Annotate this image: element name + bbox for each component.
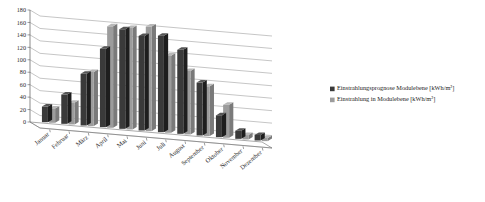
x-axis-tick [185,141,186,144]
y-axis-tick-label: 140 [17,31,26,38]
y-axis-tick-label: 120 [17,44,26,51]
bar-column [119,27,129,129]
bar-side-face [106,46,110,127]
bar-side-face [171,53,175,133]
x-axis-tick-label: Juli [155,140,167,151]
bar-column [139,33,149,130]
bar-front-face [235,131,241,139]
bar-side-face [190,68,194,134]
legend-label: Einstrahlungsprognose Modulebene [kWh/m²… [337,84,454,92]
bar-front-face [119,29,125,129]
y-axis-tick-label: 40 [20,93,26,100]
y-axis-tick-label: 20 [20,106,26,113]
bar-side-face [74,100,78,124]
y-axis-tick-label: 60 [20,81,26,88]
legend-swatch [330,87,335,92]
bar-side-face [203,80,207,135]
bar-chart: 020406080100120140160180 JanuarFebruarMä… [0,0,485,202]
bar-side-face [55,106,59,123]
bar-column [177,47,187,134]
bar-front-face [42,107,48,123]
y-axis-tick-label: 0 [23,118,26,125]
chart-legend: Einstrahlungsprognose Modulebene [kWh/m²… [330,84,454,103]
x-axis-tick-label: Februar [50,131,70,150]
x-axis-tick [108,135,109,138]
bar-side-face [210,84,214,136]
x-axis-tick-label: Januar [33,130,51,147]
x-axis-tick [262,148,263,151]
bar-column [216,113,226,137]
bar-column [42,104,52,122]
x-axis-tick [50,130,51,133]
x-axis-tick [88,133,89,136]
bar-group [42,24,272,141]
bar-front-face [158,36,164,132]
bar-front-face [100,49,106,127]
legend-swatch [330,98,335,103]
x-axis-tick-label: April [93,135,108,149]
y-axis-tick-label: 80 [20,68,26,75]
bar-side-face [67,92,71,124]
bar-front-face [177,50,183,134]
y-axis-tick-label: 160 [17,19,26,26]
bar-side-face [222,113,226,137]
bar-side-face [183,47,187,134]
x-axis-tick [146,138,147,141]
y-axis-tick-labels: 020406080100120140160180 [17,6,26,125]
x-axis-tick [127,136,128,139]
bar-side-face [87,71,91,125]
bar-side-face [145,33,149,130]
x-axis-tick-label: August [167,142,186,159]
bar-front-face [197,83,203,136]
chart-container: 020406080100120140160180 JanuarFebruarMä… [0,0,485,202]
bar-column [81,71,91,125]
bar-front-face [61,95,67,124]
bar-front-face [255,135,261,141]
bar-side-face [113,24,117,128]
y-axis-tick-label: 180 [17,6,26,13]
x-axis-tick [166,140,167,143]
bar-column [100,46,110,127]
bar-side-face [125,27,129,129]
x-axis-tick-label: März [74,133,89,147]
x-axis-tick [224,145,225,148]
bar-side-face [132,26,136,130]
x-axis-tick-label: Juni [134,138,147,150]
bar-side-face [48,104,52,122]
legend-label: Einstrahlung in Modulebene [kWh/m²] [337,95,435,103]
x-axis-tick [243,146,244,149]
x-axis-tick-label: Mai [115,137,128,149]
bar-column [158,33,168,132]
bar-column [61,92,71,124]
x-axis-tick [69,131,70,134]
x-axis-tick [204,143,205,146]
bar-side-face [152,24,156,131]
bar-side-face [164,33,168,132]
bar-front-face [139,36,145,131]
bar-side-face [94,69,98,126]
bar-front-face [81,74,87,126]
bar-column [197,80,207,135]
bar-front-face [216,115,222,137]
y-axis-tick-label: 100 [17,56,26,63]
bar-side-face [229,102,233,137]
